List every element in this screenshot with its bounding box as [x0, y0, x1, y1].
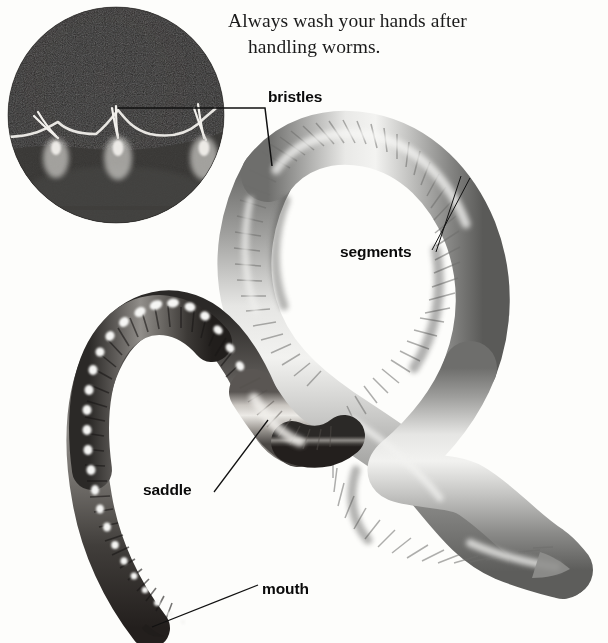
label-mouth: mouth: [262, 580, 309, 598]
caption-line-1: Always wash your hands after: [228, 10, 467, 31]
figure-page: Always wash your hands after handling wo…: [0, 0, 608, 643]
figure-caption: Always wash your hands after handling wo…: [228, 8, 558, 60]
label-bristles: bristles: [268, 88, 322, 106]
label-saddle: saddle: [143, 481, 192, 499]
label-segments: segments: [340, 243, 412, 261]
caption-line-2: handling worms.: [228, 34, 558, 60]
